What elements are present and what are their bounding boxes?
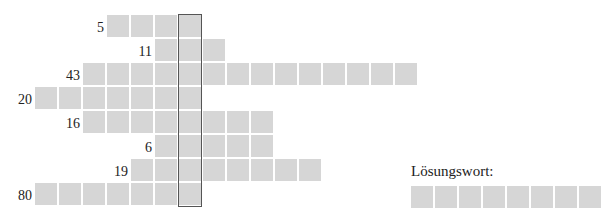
crossword-cell[interactable] [299,159,321,181]
crossword-cell[interactable] [251,159,273,181]
clue-number: 20 [2,92,32,108]
crossword-cell[interactable] [155,111,177,133]
crossword-cell[interactable] [107,63,129,85]
crossword-cell[interactable] [131,63,153,85]
crossword-cell[interactable] [35,183,57,205]
crossword-cell[interactable] [59,87,81,109]
crossword-cell[interactable] [155,39,177,61]
solution-cell[interactable] [507,186,529,208]
clue-number: 16 [50,116,80,132]
solution-cell[interactable] [531,186,553,208]
crossword-cell[interactable] [251,63,273,85]
crossword-cell[interactable] [227,135,249,157]
crossword-cell[interactable] [251,135,273,157]
crossword-cell[interactable] [83,87,105,109]
crossword-cell[interactable] [227,111,249,133]
crossword-cell[interactable] [35,87,57,109]
crossword-cell[interactable] [155,135,177,157]
solution-cell[interactable] [579,186,601,208]
crossword-cell[interactable] [371,63,393,85]
crossword-cell[interactable] [275,159,297,181]
solution-cell[interactable] [459,186,481,208]
crossword-cell[interactable] [131,183,153,205]
crossword-cell[interactable] [155,15,177,37]
crossword-cell[interactable] [107,15,129,37]
crossword-cell[interactable] [107,183,129,205]
solution-cell[interactable] [483,186,505,208]
clue-number: 43 [50,68,80,84]
crossword-cell[interactable] [131,87,153,109]
crossword-cell[interactable] [107,111,129,133]
crossword-cell[interactable] [83,183,105,205]
crossword-cell[interactable] [203,111,225,133]
crossword-cell[interactable] [299,63,321,85]
crossword-cell[interactable] [395,63,417,85]
crossword-cell[interactable] [107,87,129,109]
clue-number: 19 [98,164,128,180]
crossword-cell[interactable] [203,63,225,85]
crossword-cell[interactable] [155,159,177,181]
crossword-cell[interactable] [227,159,249,181]
clue-number: 11 [122,44,152,60]
crossword-cell[interactable] [83,63,105,85]
crossword-cell[interactable] [203,39,225,61]
crossword-cell[interactable] [155,87,177,109]
crossword-cell[interactable] [275,63,297,85]
solution-cell[interactable] [411,186,433,208]
crossword-cell[interactable] [323,63,345,85]
crossword-cell[interactable] [251,111,273,133]
crossword-cell[interactable] [155,63,177,85]
clue-number: 5 [74,20,104,36]
crossword-cell[interactable] [59,183,81,205]
crossword-cell[interactable] [131,159,153,181]
solution-label: Lösungswort: [411,163,494,180]
solution-column-highlight [178,14,202,207]
crossword-cell[interactable] [203,159,225,181]
crossword-cell[interactable] [155,183,177,205]
clue-number: 80 [2,188,32,204]
solution-cell[interactable] [435,186,457,208]
crossword-cell[interactable] [203,135,225,157]
solution-cell[interactable] [555,186,577,208]
clue-number: 6 [122,140,152,156]
crossword-cell[interactable] [131,111,153,133]
crossword-cell[interactable] [83,111,105,133]
crossword-cell[interactable] [227,63,249,85]
crossword-cell[interactable] [131,15,153,37]
crossword-cell[interactable] [347,63,369,85]
